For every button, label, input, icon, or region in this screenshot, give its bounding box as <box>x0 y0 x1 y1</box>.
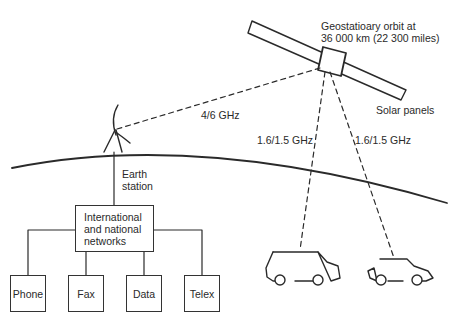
car-icon <box>368 259 433 285</box>
orbit-label-line2: 36 000 km (22 300 miles) <box>321 32 439 44</box>
mobile-link-1-frequency-label: 1.6/1.5 GHz <box>257 134 313 146</box>
terminal-phone: Phone <box>10 275 46 312</box>
satellite-communication-diagram: Geostatioary orbit at 36 000 km (22 300 … <box>0 0 458 324</box>
mobile-link-van <box>300 72 325 250</box>
uplink-frequency-label: 4/6 GHz <box>201 109 240 121</box>
solar-panels-label: Solar panels <box>376 104 434 116</box>
van-icon <box>266 252 340 285</box>
terminal-data: Data <box>126 275 162 312</box>
satellite-body <box>318 47 346 76</box>
earth-surface <box>12 155 447 203</box>
networks-box: International and national networks <box>75 205 154 252</box>
terminal-telex: Telex <box>184 275 220 312</box>
mobile-link-car <box>330 72 394 258</box>
earth-station-label-line1: Earth <box>122 168 147 180</box>
orbit-label-line1: Geostatioary orbit at <box>321 20 416 32</box>
mobile-link-2-frequency-label: 1.6/1.5 GHz <box>355 134 411 146</box>
earth-station-label-line2: station <box>122 180 153 192</box>
terminal-fax: Fax <box>68 275 104 312</box>
